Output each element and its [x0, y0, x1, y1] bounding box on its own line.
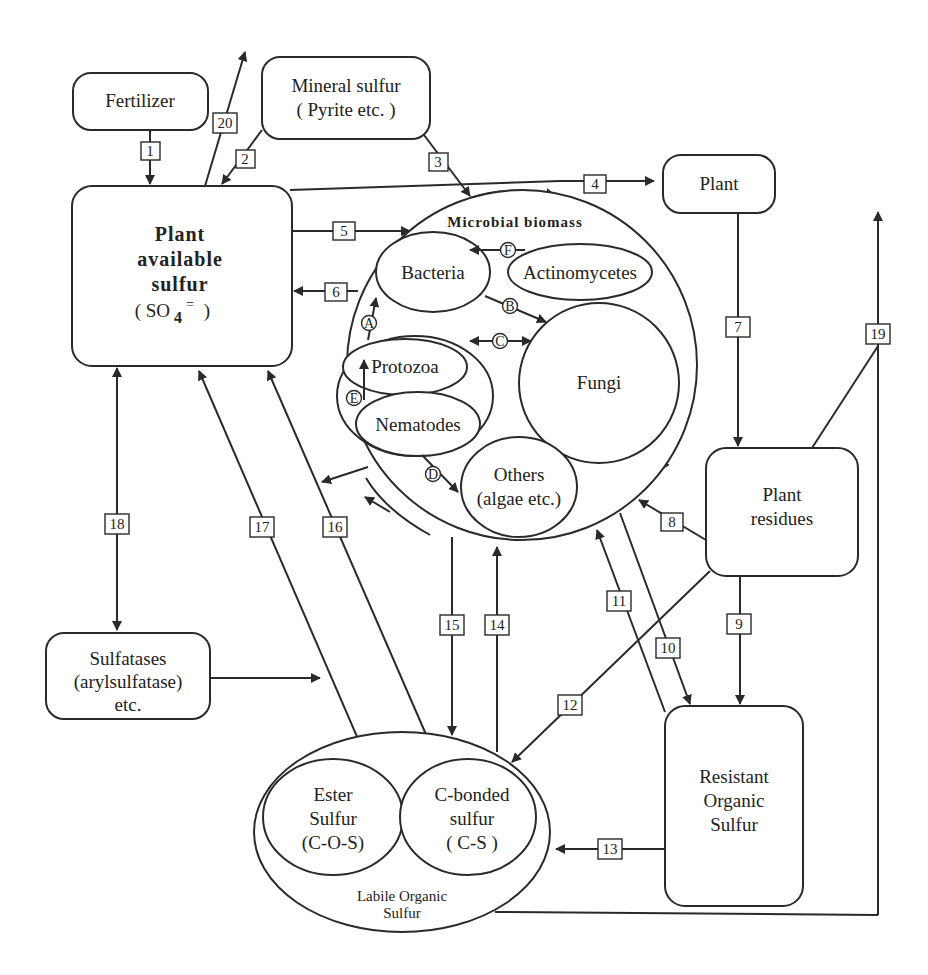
- resistant-line1: Resistant: [699, 766, 769, 787]
- plant-available-superscript: =: [186, 297, 194, 312]
- flow-label-E: E: [350, 391, 359, 406]
- mineral-sulfur-label: Mineral sulfur: [291, 75, 401, 96]
- cbonded-line3: ( C-S ): [446, 832, 498, 854]
- others-line2: (algae etc.): [477, 488, 561, 510]
- flow-label-7: 7: [734, 319, 742, 335]
- flow-label-15: 15: [445, 617, 460, 633]
- sulfur-cycle-diagram: Fertilizer Mineral sulfur ( Pyrite etc. …: [0, 0, 928, 975]
- plant-available-line2: available: [137, 248, 223, 270]
- plant-available-line3: sulfur: [151, 273, 208, 295]
- flow-label-C: C: [495, 334, 504, 349]
- flow-label-4: 4: [591, 176, 599, 192]
- node-sulfatases: Sulfatases (arylsulfatase) etc.: [46, 633, 210, 719]
- flow-label-19: 19: [871, 326, 886, 342]
- cbonded-line1: C-bonded: [435, 784, 510, 805]
- labile-line1: Labile Organic: [357, 888, 447, 904]
- fertilizer-label: Fertilizer: [105, 90, 175, 111]
- flow-label-18: 18: [110, 516, 125, 532]
- node-mineral-sulfur: Mineral sulfur ( Pyrite etc. ): [262, 57, 430, 139]
- flow-label-1: 1: [146, 143, 154, 159]
- ester-line2: Sulfur: [309, 808, 357, 829]
- node-plant-residues: Plant residues: [706, 448, 858, 576]
- mineral-sulfur-sublabel: ( Pyrite etc. ): [296, 99, 395, 121]
- ester-line1: Ester: [313, 784, 353, 805]
- ester-line3: (C-O-S): [302, 832, 364, 854]
- cbonded-line2: sulfur: [450, 808, 495, 829]
- actinomycetes-label: Actinomycetes: [523, 262, 637, 283]
- resistant-line2: Organic: [704, 790, 765, 811]
- plant-available-close: ): [204, 300, 210, 322]
- flow-label-17: 17: [255, 519, 271, 535]
- flow-label-D: D: [428, 467, 438, 482]
- fungi-label: Fungi: [577, 372, 621, 393]
- flow-label-2: 2: [241, 151, 249, 167]
- flow-label-12: 12: [563, 697, 578, 713]
- plant-available-line1: Plant: [155, 223, 206, 245]
- flow-label-6: 6: [332, 284, 340, 300]
- node-labile-organic-sulfur: Ester Sulfur (C-O-S) C-bonded sulfur ( C…: [254, 732, 550, 932]
- flow-label-8: 8: [668, 514, 676, 530]
- flow-label-20: 20: [218, 115, 233, 131]
- node-resistant-organic-sulfur: Resistant Organic Sulfur: [665, 706, 803, 906]
- flow-label-14: 14: [490, 617, 506, 633]
- flow-label-5: 5: [340, 223, 348, 239]
- sulfatases-line3: etc.: [115, 694, 142, 715]
- plant-residues-line2: residues: [751, 508, 813, 529]
- protozoa-label: Protozoa: [371, 356, 439, 377]
- resistant-line3: Sulfur: [710, 814, 758, 835]
- flow-label-A: A: [364, 316, 375, 331]
- plant-residues-line1: Plant: [762, 484, 802, 505]
- flow-label-3: 3: [434, 154, 442, 170]
- others-line1: Others: [494, 464, 545, 485]
- sulfatases-line2: (arylsulfatase): [74, 671, 183, 693]
- plant-available-formula: ( SO: [135, 300, 170, 322]
- flow-label-B: B: [505, 299, 514, 314]
- plant-available-subscript: 4: [174, 309, 182, 326]
- node-microbial-biomass: Microbial biomass Bacteria Actinomycetes…: [337, 190, 697, 540]
- node-fertilizer: Fertilizer: [73, 73, 208, 130]
- node-plant: Plant: [663, 155, 775, 213]
- node-plant-available-sulfur: Plant available sulfur ( SO 4 = ): [72, 186, 292, 366]
- flow-label-10: 10: [661, 640, 676, 656]
- flow-label-11: 11: [612, 593, 626, 609]
- microbial-biomass-label: Microbial biomass: [447, 214, 582, 230]
- plant-label: Plant: [699, 173, 739, 194]
- flow-label-F: F: [504, 243, 512, 258]
- sulfatases-line1: Sulfatases: [89, 648, 166, 669]
- flow-label-16: 16: [328, 519, 344, 535]
- flow-label-13: 13: [603, 841, 618, 857]
- flow-label-9: 9: [735, 616, 743, 632]
- others-ellipse: [461, 437, 577, 537]
- labile-line2: Sulfur: [383, 905, 421, 921]
- nematodes-label: Nematodes: [375, 414, 460, 435]
- bacteria-label: Bacteria: [401, 262, 465, 283]
